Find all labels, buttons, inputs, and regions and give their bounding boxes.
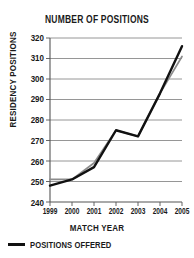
plot-area	[0, 0, 194, 258]
legend-line-swatch	[8, 243, 25, 246]
chart-figure: NUMBER OF POSITIONS RESIDENCY POSITIONS …	[0, 0, 194, 258]
gridlines	[46, 38, 182, 202]
x-axis-ticks	[50, 202, 182, 206]
legend-label: POSITIONS OFFERED	[30, 239, 111, 250]
chart-legend: POSITIONS OFFERED	[8, 240, 111, 249]
series-lines	[50, 46, 182, 185]
